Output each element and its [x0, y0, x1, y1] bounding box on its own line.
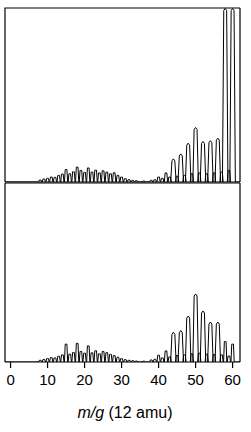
x-tick-label-20: 20: [76, 371, 93, 388]
x-tick-label-60: 60: [224, 371, 241, 388]
x-tick-label-30: 30: [113, 371, 130, 388]
top-panel: [5, 8, 240, 182]
x-tick-label-0: 0: [6, 371, 14, 388]
x-axis-title: m/g (12 amu): [77, 404, 172, 421]
bottom-panel: [5, 183, 240, 362]
mass-spectrum-svg: 0102030405060 m/g (12 amu): [0, 0, 251, 432]
x-tick-label-50: 50: [187, 371, 204, 388]
x-tick-label-40: 40: [150, 371, 167, 388]
x-axis-tick-labels: 0102030405060: [6, 371, 241, 388]
x-axis-ticks: [11, 362, 233, 368]
mass-spectrum-figure: 0102030405060 m/g (12 amu): [0, 0, 251, 432]
x-tick-label-10: 10: [39, 371, 56, 388]
